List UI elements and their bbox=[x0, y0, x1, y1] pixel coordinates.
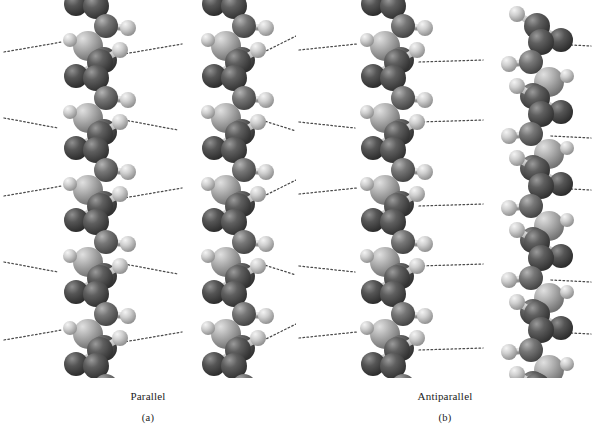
hydrogen-atom bbox=[560, 357, 574, 371]
hydrogen-bond bbox=[4, 186, 62, 196]
hydrogen-bond bbox=[4, 118, 58, 128]
hydrogen-atom bbox=[112, 330, 128, 346]
alpha-carbon-atom bbox=[232, 302, 256, 326]
molecule-diagram-parallel bbox=[0, 0, 296, 378]
hydrogen-atom bbox=[509, 366, 525, 378]
hydrogen-bond bbox=[124, 120, 178, 130]
hydrogen-atom bbox=[509, 222, 525, 238]
hydrogen-atom bbox=[509, 78, 525, 94]
hydrogen-bond bbox=[299, 332, 357, 338]
panel-parallel: Parallel (a) bbox=[0, 0, 296, 440]
hydrogen-bond bbox=[419, 264, 483, 266]
hydrogen-atom bbox=[258, 308, 274, 324]
hydrogen-atom bbox=[258, 236, 274, 252]
hydrogen-atom bbox=[63, 321, 77, 335]
hydrogen-atom bbox=[258, 20, 274, 36]
alpha-carbon-atom bbox=[391, 86, 415, 110]
hydrogen-atom bbox=[417, 236, 433, 252]
hydrogen-atom bbox=[360, 249, 374, 263]
panel-index-antiparallel: (b) bbox=[297, 412, 593, 423]
alpha-carbon-atom bbox=[94, 230, 118, 254]
hydrogen-atom bbox=[360, 105, 374, 119]
hydrogen-bond bbox=[551, 280, 591, 282]
hydrogen-atom bbox=[501, 272, 517, 288]
hydrogen-atom bbox=[250, 186, 266, 202]
hydrogen-bond bbox=[4, 330, 62, 340]
hydrogen-atom bbox=[112, 42, 128, 58]
hydrogen-atom bbox=[409, 186, 425, 202]
hydrogen-atom bbox=[560, 141, 574, 155]
hydrogen-atom bbox=[501, 200, 517, 216]
hydrogen-atom bbox=[560, 285, 574, 299]
hydrogen-atom bbox=[120, 92, 136, 108]
hydrogen-atom bbox=[201, 249, 215, 263]
hydrogen-atom bbox=[501, 128, 517, 144]
hydrogen-atom bbox=[258, 164, 274, 180]
hydrogen-atom bbox=[201, 105, 215, 119]
polypeptide-chain-group bbox=[360, 0, 574, 378]
alpha-carbon-atom bbox=[94, 302, 118, 326]
hydrogen-atom bbox=[250, 258, 266, 274]
alpha-carbon-atom bbox=[391, 302, 415, 326]
hydrogen-bond bbox=[551, 136, 591, 138]
hydrogen-atom bbox=[417, 308, 433, 324]
hydrogen-atom bbox=[509, 6, 525, 22]
panel-antiparallel: Antiparallel (b) bbox=[297, 0, 593, 440]
hydrogen-atom bbox=[409, 42, 425, 58]
hydrogen-atom bbox=[560, 213, 574, 227]
hydrogen-atom bbox=[120, 308, 136, 324]
hydrogen-atom bbox=[509, 150, 525, 166]
hydrogen-atom bbox=[63, 249, 77, 263]
alpha-carbon-atom bbox=[232, 158, 256, 182]
hydrogen-bond bbox=[124, 264, 178, 274]
hydrogen-atom bbox=[63, 33, 77, 47]
hydrogen-atom bbox=[120, 164, 136, 180]
hydrogen-bond bbox=[299, 266, 355, 272]
hydrogen-atom bbox=[417, 20, 433, 36]
hydrogen-atom bbox=[120, 236, 136, 252]
hydrogen-bond bbox=[419, 60, 483, 62]
hydrogen-atom bbox=[509, 294, 525, 310]
alpha-carbon-atom bbox=[519, 122, 543, 146]
hydrogen-atom bbox=[417, 164, 433, 180]
hydrogen-atom bbox=[250, 330, 266, 346]
alpha-carbon-atom bbox=[232, 230, 256, 254]
hydrogen-bond bbox=[419, 348, 483, 350]
hydrogen-atom bbox=[501, 344, 517, 360]
hydrogen-atom bbox=[409, 330, 425, 346]
molecule-diagram-antiparallel bbox=[297, 0, 593, 378]
hydrogen-atom bbox=[409, 114, 425, 130]
hydrogen-atom bbox=[201, 177, 215, 191]
hydrogen-atom bbox=[258, 92, 274, 108]
alpha-carbon-atom bbox=[519, 194, 543, 218]
hydrogen-bond bbox=[419, 120, 483, 122]
hydrogen-atom bbox=[63, 105, 77, 119]
hydrogen-atom bbox=[112, 114, 128, 130]
hydrogen-atom bbox=[560, 69, 574, 83]
panel-label-parallel: Parallel bbox=[0, 390, 296, 402]
alpha-carbon-atom bbox=[519, 266, 543, 290]
hydrogen-atom bbox=[360, 177, 374, 191]
hydrogen-bond bbox=[419, 204, 483, 206]
hydrogen-atom bbox=[201, 33, 215, 47]
hydrogen-atom bbox=[250, 114, 266, 130]
hydrogen-atom bbox=[112, 186, 128, 202]
hydrogen-bond bbox=[4, 262, 58, 272]
polypeptide-chain-group bbox=[63, 0, 274, 378]
alpha-carbon-atom bbox=[232, 14, 256, 38]
hydrogen-atom bbox=[409, 258, 425, 274]
hydrogen-bond bbox=[299, 188, 357, 194]
figure-canvas: Parallel (a) bbox=[0, 0, 593, 440]
alpha-carbon-atom bbox=[391, 230, 415, 254]
alpha-carbon-atom bbox=[232, 86, 256, 110]
hydrogen-bond bbox=[299, 122, 355, 128]
panel-index-parallel: (a) bbox=[0, 412, 296, 423]
alpha-carbon-atom bbox=[94, 158, 118, 182]
hydrogen-atom bbox=[112, 258, 128, 274]
hydrogen-atom bbox=[360, 33, 374, 47]
hydrogen-atom bbox=[63, 177, 77, 191]
hydrogen-atom bbox=[120, 20, 136, 36]
alpha-carbon-atom bbox=[391, 158, 415, 182]
hydrogen-atom bbox=[501, 56, 517, 72]
alpha-carbon-atom bbox=[94, 86, 118, 110]
